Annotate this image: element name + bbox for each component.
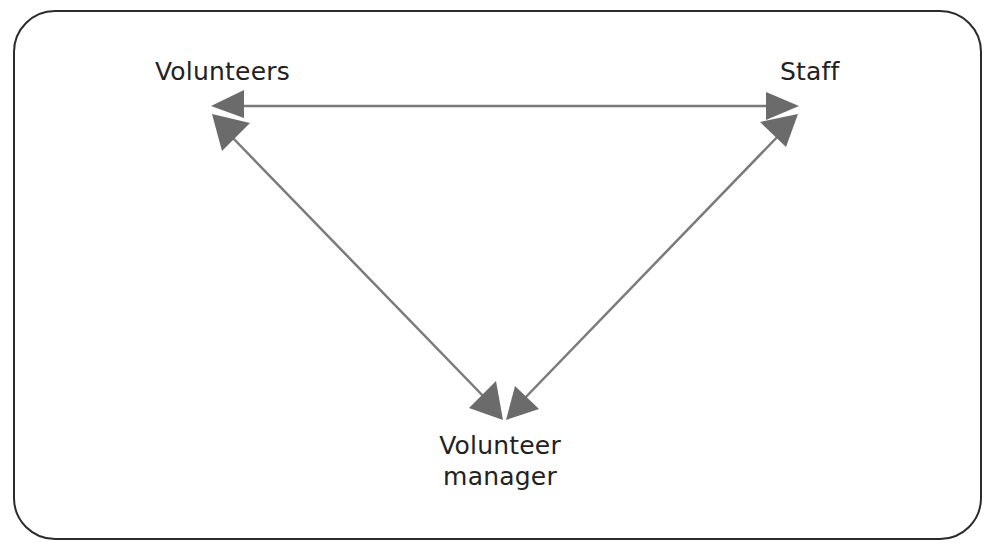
- arrowhead-left-icon: [211, 90, 244, 118]
- edge-staff-manager: [506, 114, 798, 420]
- arrowhead-up-right-icon: [760, 114, 798, 147]
- node-volunteer-manager: Volunteer manager: [410, 430, 590, 492]
- node-staff: Staff: [780, 56, 840, 87]
- arrowhead-down-left-icon: [506, 386, 539, 420]
- edge-volunteers-manager: [212, 114, 503, 420]
- arrowhead-up-left-icon: [212, 114, 250, 151]
- arrow-line: [523, 132, 782, 400]
- node-volunteer-manager-line2: manager: [410, 461, 590, 492]
- node-volunteer-manager-line1: Volunteer: [410, 430, 590, 461]
- edge-volunteers-staff: [211, 90, 799, 120]
- node-volunteers: Volunteers: [155, 56, 290, 87]
- arrow-line: [230, 135, 487, 400]
